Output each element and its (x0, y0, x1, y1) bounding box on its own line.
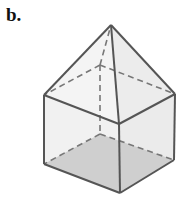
composite-solid-diagram (0, 0, 184, 204)
